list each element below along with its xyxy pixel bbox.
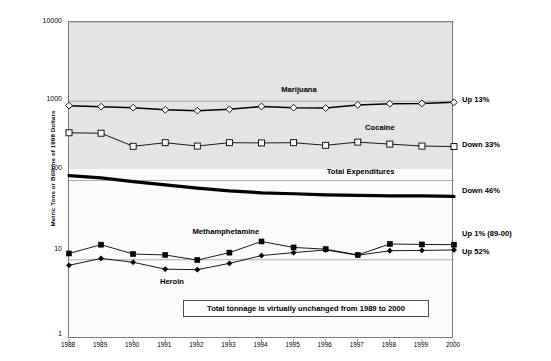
x-tick-2000: 2000: [433, 341, 473, 348]
chart-container: Metric Tons or Billions of 1998 Dollars …: [0, 0, 551, 361]
series-label-total-expenditures: Total Expenditures: [327, 167, 395, 176]
series-label-marijuana: Marijuana: [281, 85, 316, 94]
series-layer: [69, 22, 454, 339]
y-tick-1: 1: [22, 330, 62, 337]
series-label-heroin: Heroin: [160, 277, 184, 286]
annotation-up-13: Up 13%: [462, 95, 489, 104]
series-label-cocaine: Cocaine: [365, 123, 395, 132]
y-tick-10: 10: [22, 245, 62, 252]
y-tick-1000: 1000: [22, 95, 62, 102]
series-label-methamphetamine: Methamphetamine: [193, 227, 260, 236]
y-tick-10000: 10000: [22, 17, 62, 24]
annotation-down-33: Down 33%: [462, 140, 500, 149]
y-tick-100: 100: [22, 164, 62, 171]
annotation-up-1-89-00: Up 1% (89-00): [462, 229, 512, 238]
plot-area: [68, 21, 453, 338]
annotation-down-46: Down 46%: [462, 186, 500, 195]
callout-box: Total tonnage is virtually unchanged fro…: [183, 300, 429, 317]
annotation-up-52: Up 52%: [462, 247, 489, 256]
callout-text: Total tonnage is virtually unchanged fro…: [207, 304, 405, 313]
